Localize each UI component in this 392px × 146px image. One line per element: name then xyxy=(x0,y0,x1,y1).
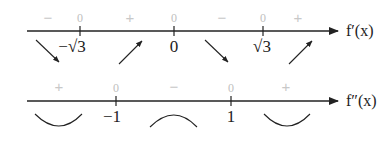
sign-positive: + xyxy=(55,79,64,94)
sign-negative: − xyxy=(170,79,179,94)
concavity-curves xyxy=(35,114,310,127)
second-derivative-label: f″(x) xyxy=(346,93,377,109)
sign-zero: 0 xyxy=(260,12,266,24)
sign-zero: 0 xyxy=(77,12,83,24)
tick-label-neg-one: −1 xyxy=(103,108,121,125)
sign-zero: 0 xyxy=(113,82,119,94)
first-derivative-label: f′(x) xyxy=(346,23,373,39)
sign-negative: − xyxy=(44,10,53,25)
tick-label-one: 1 xyxy=(227,108,236,125)
decreasing-arrow-icon xyxy=(36,40,59,62)
tick-label-neg-sqrt3: −√3 xyxy=(58,38,85,55)
concave-up-icon xyxy=(35,114,82,126)
sign-positive: + xyxy=(294,10,303,25)
sign-chart-diagram: − 0 + 0 − 0 + −√3 0 √3 f′(x) + 0 − 0 + −… xyxy=(0,0,392,146)
sign-positive: + xyxy=(282,79,291,94)
second-derivative-axis xyxy=(27,96,338,106)
tick-label-zero: 0 xyxy=(170,38,179,55)
concave-down-icon xyxy=(150,115,197,127)
sign-zero: 0 xyxy=(228,82,234,94)
increasing-arrow-icon xyxy=(119,41,142,64)
concave-up-icon xyxy=(264,114,310,126)
first-derivative-axis xyxy=(27,26,338,36)
diagram-lines xyxy=(0,0,392,146)
tick-label-sqrt3: √3 xyxy=(253,38,271,55)
sign-positive: + xyxy=(126,10,135,25)
increasing-arrow-icon xyxy=(289,41,312,64)
decreasing-arrow-icon xyxy=(205,40,228,62)
sign-negative: − xyxy=(218,10,227,25)
sign-zero: 0 xyxy=(171,12,177,24)
